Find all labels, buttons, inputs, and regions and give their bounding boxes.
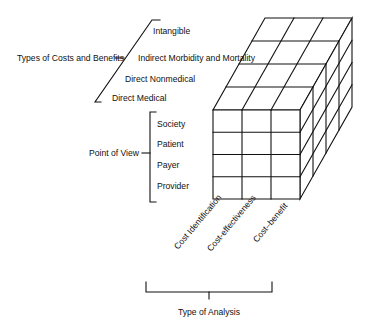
analysis-cost-benefit: Cost–benefit (251, 200, 290, 244)
cost-type-direct-nonmedical: Direct Nonmedical (125, 74, 195, 84)
cost-type-intangible: Intangible (153, 26, 190, 36)
cost-type-indirect-morbidity-mortality: Indirect Morbidity and Mortality (138, 53, 256, 63)
costs-axis-title: Types of Costs and Benefits (17, 53, 124, 63)
analysis-bracket (146, 282, 272, 299)
view-bracket (142, 112, 156, 202)
cost-type-direct-medical: Direct Medical (112, 93, 167, 103)
view-axis-title: Point of View (89, 148, 140, 158)
analysis-cube (213, 18, 352, 199)
view-society: Society (157, 119, 186, 129)
analysis-axis-title: Type of Analysis (178, 307, 240, 317)
cost-analysis-cube-diagram: Types of Costs and Benefits Intangible I… (0, 0, 369, 328)
view-patient: Patient (157, 139, 184, 149)
view-payer: Payer (157, 160, 180, 170)
view-provider: Provider (157, 181, 189, 191)
